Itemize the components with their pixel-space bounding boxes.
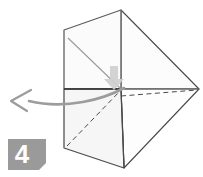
lower-right-wing-triangle (121, 89, 199, 168)
step-badge-label: 4 (15, 139, 30, 169)
step-badge: 4 (8, 139, 46, 170)
origami-step-figure: 4 (0, 0, 203, 177)
upper-right-wing-triangle (121, 10, 199, 89)
origami-diagram-canvas: 4 (0, 0, 203, 177)
paper-model-group (64, 10, 199, 168)
